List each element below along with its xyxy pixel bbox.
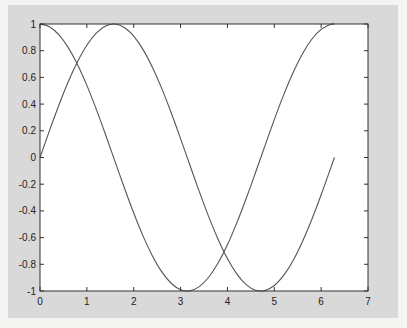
y-tick-label: 1 bbox=[30, 19, 36, 30]
y-tick-label: 0.2 bbox=[22, 125, 36, 136]
y-tick-label: -0.8 bbox=[19, 259, 37, 270]
x-tick-label: 5 bbox=[272, 296, 278, 307]
y-tick-label: 0.4 bbox=[22, 99, 36, 110]
y-tick-label: -0.2 bbox=[19, 179, 37, 190]
y-tick-label: -0.6 bbox=[19, 232, 37, 243]
y-tick-label: -0.4 bbox=[19, 205, 37, 216]
y-tick-label: 0.6 bbox=[22, 72, 36, 83]
axes-area bbox=[40, 24, 368, 291]
y-tick-label: 0.8 bbox=[22, 45, 36, 56]
x-tick-label: 2 bbox=[131, 296, 137, 307]
y-tick-label: -1 bbox=[27, 286, 36, 297]
x-tick-label: 7 bbox=[365, 296, 371, 307]
x-tick-label: 1 bbox=[84, 296, 90, 307]
x-tick-label: 6 bbox=[318, 296, 324, 307]
x-tick-label: 0 bbox=[37, 296, 43, 307]
x-tick-label: 3 bbox=[178, 296, 184, 307]
line-chart: 0123456710.80.60.40.20-0.2-0.4-0.6-0.8-1 bbox=[0, 0, 407, 328]
x-tick-label: 4 bbox=[225, 296, 231, 307]
y-tick-label: 0 bbox=[30, 152, 36, 163]
